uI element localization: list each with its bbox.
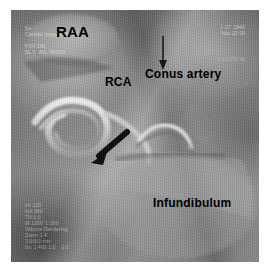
annotation-label-rca: RCA [105,76,132,88]
annotation-label-conus-artery: Conus artery [145,68,221,80]
annotation-label-infundibulum: Infundibulum [153,197,231,209]
render-noise-overlay [11,10,259,262]
annotation-label-raa: RAA [56,24,89,39]
volume-rendered-ct-image: Se: Cardiac Imaging Ar 04 FOV 180 SL 5 W… [11,10,259,262]
medical-image-viewer: Se: Cardiac Imaging Ar 04 FOV 180 SL 5 W… [0,0,269,270]
